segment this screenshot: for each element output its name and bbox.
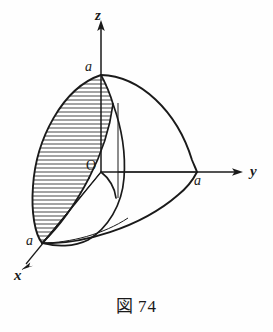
figure-drawing (0, 0, 273, 332)
z-intercept-label: a (85, 60, 92, 74)
origin-label: O (86, 159, 96, 173)
x-axis-arrowhead (21, 263, 33, 271)
caption-symbol: 図 (116, 297, 134, 316)
figure-74: z a y a x a O 図74 (0, 0, 273, 332)
x-intercept-label: a (26, 234, 33, 248)
arc-zy-sphere (101, 75, 197, 172)
x-axis-label: x (14, 268, 22, 283)
figure-caption: 図74 (0, 292, 273, 317)
y-axis-label: y (250, 164, 257, 179)
z-axis-label: z (95, 8, 101, 23)
y-intercept-label: a (194, 174, 201, 188)
caption-number: 74 (138, 297, 157, 316)
curve-cylinder-trace-near-origin (101, 172, 116, 198)
